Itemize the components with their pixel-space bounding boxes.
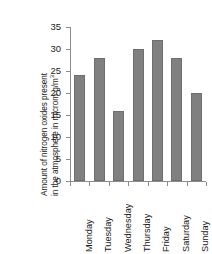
y-axis-tick-label: 5 <box>56 153 61 164</box>
y-axis-tick-label: 0 <box>56 175 61 186</box>
x-axis-tick-label: Friday <box>161 226 171 252</box>
x-axis-tick <box>206 182 207 186</box>
x-axis-tick-label: Monday <box>84 219 94 252</box>
y-axis-tick-label: 25 <box>50 65 61 76</box>
bar <box>191 93 202 181</box>
x-axis-labels: MondayTuesdayWednesdayThursdayFridaySatu… <box>70 186 206 254</box>
x-axis-tick-label: Wednesday <box>123 204 133 252</box>
y-axis-tick-label: 35 <box>50 21 61 32</box>
bar <box>171 58 182 181</box>
y-axis-title: Amount of nitrogen oxides present in the… <box>0 0 46 200</box>
y-axis-tick-label: 15 <box>50 109 61 120</box>
bar-chart: Amount of nitrogen oxides present in the… <box>0 0 212 254</box>
bar-series <box>70 27 206 182</box>
bar <box>133 49 144 181</box>
x-axis-tick-label: Saturday <box>181 215 191 252</box>
bar <box>74 75 85 181</box>
y-axis-tick-label: 30 <box>50 43 61 54</box>
x-axis-tick-label: Sunday <box>200 221 210 252</box>
x-axis-tick-label: Tuesday <box>103 217 113 252</box>
y-axis-tick-label: 10 <box>50 131 61 142</box>
bar <box>113 111 124 181</box>
x-axis-tick-label: Thursday <box>142 214 152 252</box>
bar <box>94 58 105 181</box>
plot-area: 05101520253035 <box>70 27 206 182</box>
y-axis-tick-label: 20 <box>50 87 61 98</box>
bar <box>152 40 163 181</box>
y-axis-title-line-1: Amount of nitrogen oxides present <box>40 16 51 196</box>
